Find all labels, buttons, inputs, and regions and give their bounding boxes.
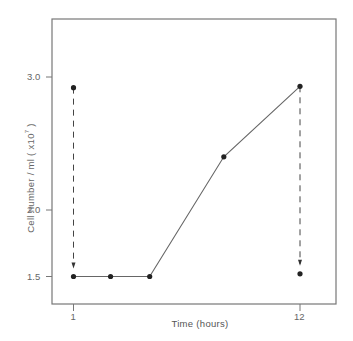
- data-point: [297, 271, 302, 276]
- dilution-arrows: [72, 86, 303, 268]
- data-point: [71, 85, 76, 90]
- series-line: [74, 86, 301, 276]
- data-point: [297, 84, 302, 89]
- series-lines: [74, 86, 301, 276]
- data-point: [71, 274, 76, 279]
- data-point: [108, 274, 113, 279]
- x-tick-label: 1: [71, 311, 76, 322]
- chart-canvas: [0, 0, 353, 341]
- x-tick-label: 12: [294, 311, 305, 322]
- data-point: [147, 274, 152, 279]
- y-tick-label: 1.5: [27, 271, 40, 282]
- arrowhead-icon: [72, 263, 76, 269]
- y-tick-label: 3.0: [27, 71, 40, 82]
- y-axis-label: Cell number / ml ( x107 ): [24, 123, 35, 233]
- data-points: [71, 84, 303, 279]
- y-tick-label: 2.0: [27, 204, 40, 215]
- arrowhead-icon: [298, 260, 302, 266]
- axis-ticks: [46, 77, 300, 311]
- plot-frame: [52, 19, 336, 304]
- data-point: [221, 154, 226, 159]
- x-axis-label: Time (hours): [171, 318, 228, 329]
